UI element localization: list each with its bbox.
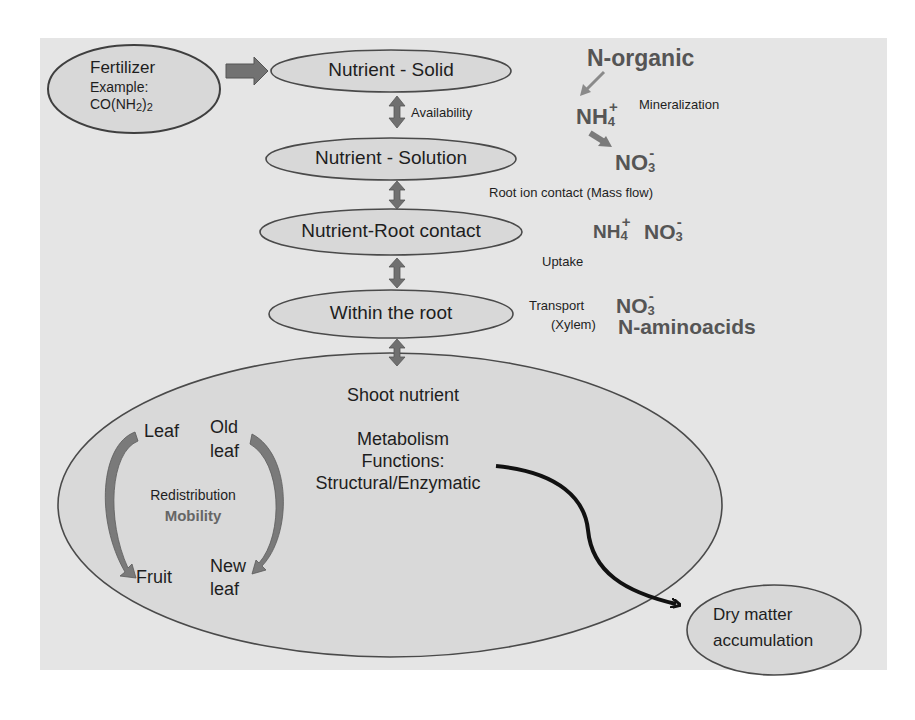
metabolism-label: Metabolism <box>357 430 449 448</box>
fertilizer-title: Fertilizer <box>90 58 155 79</box>
no3-ion: NO3- <box>615 149 654 174</box>
availability-label: Availability <box>411 106 472 119</box>
double-arrow-icon <box>389 258 405 288</box>
double-arrow-icon <box>389 181 405 209</box>
mineralization-label: Mineralization <box>639 98 719 111</box>
nutrient-solid-label: Nutrient - Solid <box>328 60 454 79</box>
leaf-label: Leaf <box>144 422 179 440</box>
redistribution-label: Redistribution <box>150 488 236 502</box>
n-organic-label: N-organic <box>587 47 694 70</box>
no3-ion-transport: NO3- <box>616 292 654 317</box>
dry-matter-ellipse <box>687 585 861 675</box>
functions-label: Functions: <box>361 452 444 470</box>
nutrient-solution-label: Nutrient - Solution <box>315 148 467 167</box>
fertilizer-example: Example: <box>90 79 155 96</box>
fertilizer-label: Fertilizer Example: CO(NH2)2 <box>90 58 155 114</box>
old-leaf-label-1: Old <box>210 418 238 436</box>
within-root-label: Within the root <box>330 303 453 322</box>
no3-ion-contact: NO3- <box>644 218 682 243</box>
transport-label: Transport <box>529 299 584 312</box>
root-ion-contact-label: Root ion contact (Mass flow) <box>489 186 653 199</box>
dry-matter-label-1: Dry matter <box>713 606 792 623</box>
n-aminoacids-label: N-aminoacids <box>618 316 756 337</box>
shoot-nutrient-label: Shoot nutrient <box>347 386 459 404</box>
uptake-label: Uptake <box>542 255 583 268</box>
dry-matter-label-2: accumulation <box>713 632 813 649</box>
double-arrow-icon <box>389 96 405 128</box>
mobility-label: Mobility <box>165 508 222 523</box>
nh4-ion-contact: NH4+ <box>593 218 630 242</box>
old-leaf-label-2: leaf <box>210 442 239 460</box>
fruit-label: Fruit <box>136 568 172 586</box>
fertilizer-arrow-icon <box>226 57 268 85</box>
new-leaf-label-2: leaf <box>210 580 239 598</box>
fertilizer-formula: CO(NH2)2 <box>90 96 155 114</box>
nutrient-root-contact-label: Nutrient-Root contact <box>301 221 481 240</box>
new-leaf-label-1: New <box>210 557 246 575</box>
xylem-label: (Xylem) <box>551 318 596 331</box>
nh4-ion: NH4+ <box>576 103 618 128</box>
structural-enzymatic-label: Structural/Enzymatic <box>315 474 480 492</box>
